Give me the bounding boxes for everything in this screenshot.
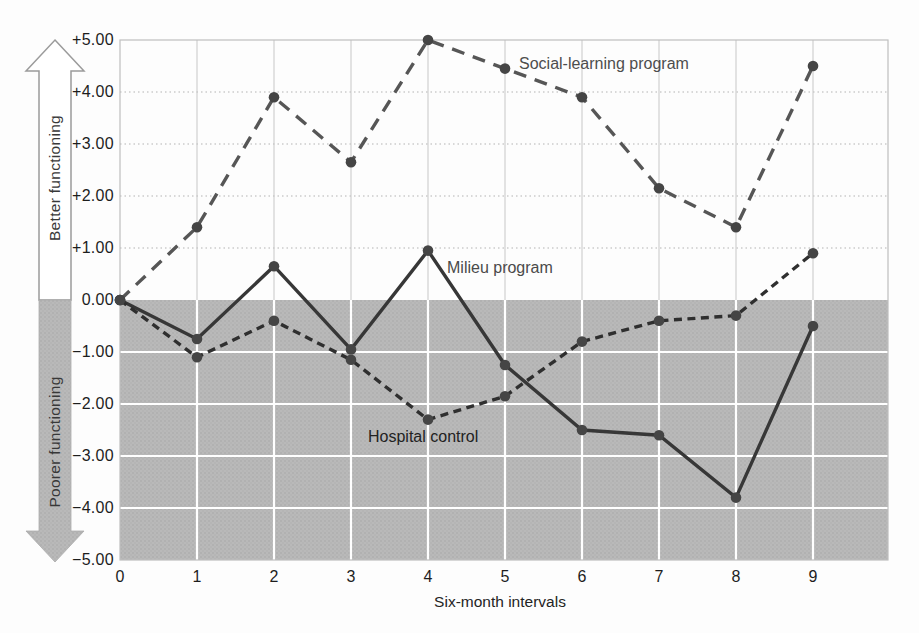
data-point-dot (577, 425, 588, 436)
x-tick-label: 5 (490, 567, 520, 587)
data-point-dot (500, 391, 511, 402)
x-tick-label: 1 (182, 567, 212, 587)
data-point-dot (346, 157, 357, 168)
figure-root: +5.00+4.00+3.00+2.00+1.000.00−1.00−2.00−… (0, 0, 919, 633)
data-point-dot (808, 248, 819, 259)
x-tick-label: 4 (413, 567, 443, 587)
data-point-dot (808, 61, 819, 72)
x-tick-label: 0 (105, 567, 135, 587)
x-axis-title: Six-month intervals (350, 593, 650, 611)
poorer-functioning-axis-label: Poorer functioning (45, 332, 65, 552)
data-point-dot (423, 35, 434, 46)
series-label-social-learning-program: Social-learning program (519, 55, 689, 73)
y-tick-label: −5.00 (40, 550, 114, 570)
x-tick-label: 6 (567, 567, 597, 587)
x-tick-label: 3 (336, 567, 366, 587)
data-point-dot (731, 310, 742, 321)
data-point-dot (654, 183, 665, 194)
data-point-dot (731, 492, 742, 503)
data-point-dot (346, 344, 357, 355)
chart-canvas (0, 0, 919, 633)
data-point-dot (577, 92, 588, 103)
data-point-dot (192, 334, 203, 345)
data-point-dot (500, 63, 511, 74)
series-label-milieu-program: Milieu program (447, 259, 553, 277)
data-point-dot (423, 414, 434, 425)
x-tick-label: 7 (644, 567, 674, 587)
series-label-hospital-control: Hospital control (368, 428, 478, 446)
x-tick-label: 8 (721, 567, 751, 587)
x-tick-label: 9 (798, 567, 828, 587)
data-point-dot (654, 430, 665, 441)
data-point-dot (269, 261, 280, 272)
y-tick-label: +5.00 (40, 30, 114, 50)
better-functioning-axis-label: Better functioning (45, 68, 65, 288)
data-point-dot (346, 355, 357, 366)
data-point-dot (115, 295, 126, 306)
data-point-dot (269, 316, 280, 327)
data-point-dot (731, 222, 742, 233)
data-point-dot (808, 321, 819, 332)
data-point-dot (423, 245, 434, 256)
data-point-dot (577, 336, 588, 347)
data-point-dot (192, 222, 203, 233)
data-point-dot (654, 316, 665, 327)
data-point-dot (192, 352, 203, 363)
data-point-dot (500, 360, 511, 371)
data-point-dot (269, 92, 280, 103)
y-tick-label: 0.00 (40, 290, 114, 310)
x-tick-label: 2 (259, 567, 289, 587)
